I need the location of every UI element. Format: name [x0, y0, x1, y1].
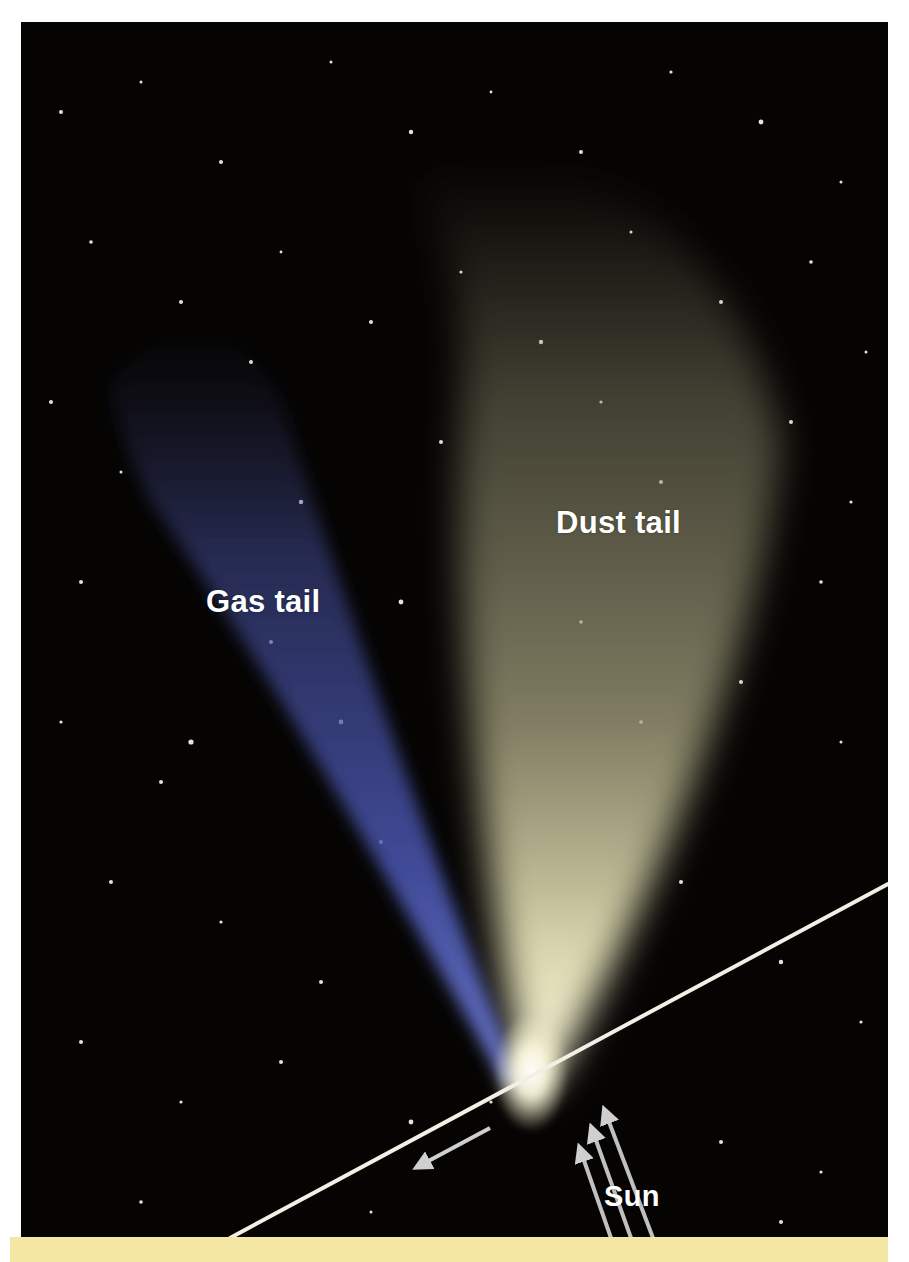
comet-nucleus: [493, 1012, 569, 1132]
dust-tail: [421, 167, 781, 1092]
dust-tail-label: Dust tail: [556, 505, 681, 541]
direction-of-motion-arrow: [421, 1128, 490, 1165]
gas-tail: [111, 331, 521, 1087]
sun-label: Sun: [604, 1180, 660, 1213]
gas-tail-label: Gas tail: [206, 584, 320, 620]
caption-strip: [10, 1237, 888, 1262]
comet-photograph: Gas tail Dust tail Sun: [21, 22, 888, 1238]
sunlight-arrows: [581, 1114, 653, 1238]
comet-illustration: [21, 22, 888, 1238]
